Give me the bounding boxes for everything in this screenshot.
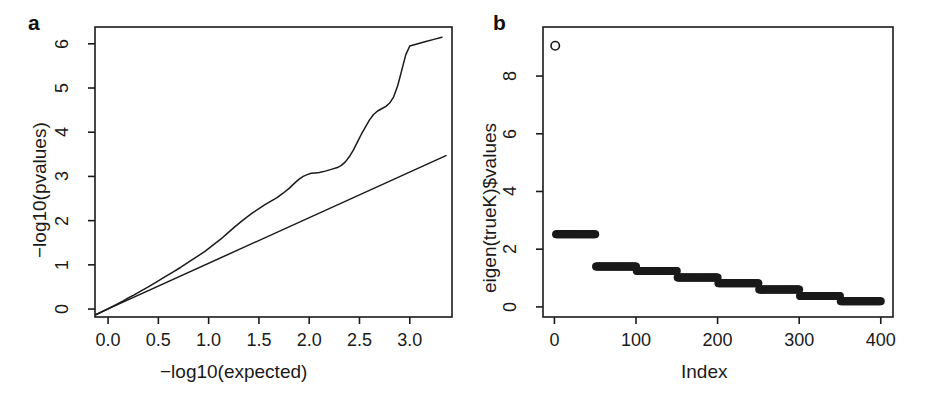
y-tick-label: 2: [501, 229, 519, 269]
x-axis-title-a: −log10(expected): [160, 362, 307, 381]
series-identity-line: [96, 156, 446, 315]
x-tick-label: 3.0: [370, 331, 450, 349]
x-tick-label: 300: [759, 331, 839, 349]
y-tick-label: 5: [53, 68, 71, 108]
panel-a: a −log10(expected) −log10(pvalues) 0.00.…: [0, 0, 465, 404]
figure-container: a −log10(expected) −log10(pvalues) 0.00.…: [0, 0, 929, 404]
y-tick-label: 0: [53, 289, 71, 329]
y-axis-title-b: eigen(trueK)$values: [480, 123, 499, 293]
y-tick-label: 4: [53, 112, 71, 152]
y-tick-label: 3: [53, 156, 71, 196]
series-qq-curve: [96, 37, 442, 315]
x-axis-title-b: Index: [681, 362, 727, 381]
y-tick-label: 4: [501, 171, 519, 211]
y-axis-title-a: −log10(pvalues): [30, 122, 49, 258]
point-eigenvalue-plateaus: [591, 230, 599, 238]
y-tick-label: 1: [53, 245, 71, 285]
y-tick-label: 8: [501, 56, 519, 96]
y-tick-label: 0: [501, 287, 519, 327]
point-eigenvalue-plateaus: [877, 297, 885, 305]
y-tick-label: 2: [53, 201, 71, 241]
x-tick-label: 400: [841, 331, 921, 349]
x-tick-label: 200: [678, 331, 758, 349]
x-tick-label: 0: [514, 331, 594, 349]
point-leading-eigenvalue: [551, 42, 559, 50]
x-tick-label: 100: [596, 331, 676, 349]
panel-b: b Index eigen(trueK)$values 010020030040…: [465, 0, 929, 404]
y-tick-label: 6: [53, 24, 71, 64]
y-tick-label: 6: [501, 114, 519, 154]
